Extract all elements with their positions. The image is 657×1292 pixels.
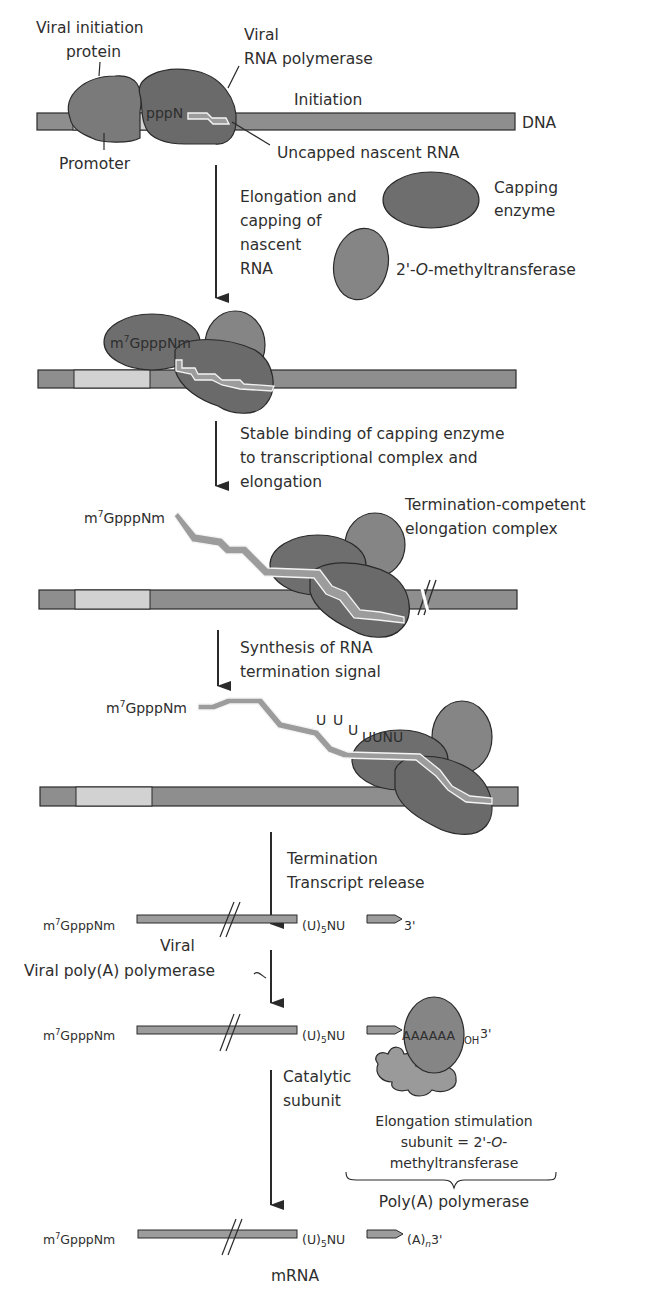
label-polya-polymerase: Poly(A) polymerase — [379, 1193, 529, 1211]
label-promoter: Promoter — [59, 155, 131, 173]
label-viral: Viral — [160, 937, 195, 955]
polya-tail: AAAAAA — [402, 1028, 455, 1043]
text-elongation-line3: nascent — [240, 236, 301, 254]
label-termination-competent-line2: elongation complex — [405, 520, 558, 538]
label-termination-competent-line1: Termination-competent — [404, 496, 585, 514]
arrow-termination-release: Termination Transcript release — [271, 832, 425, 924]
label-pppn: pppN — [146, 105, 183, 121]
u-nucleotide-3: U — [348, 722, 358, 738]
text-stable-binding-line2: to transcriptional complex and — [240, 449, 478, 467]
label-polymerase-line2: RNA polymerase — [244, 50, 373, 68]
label-capping-enzyme-line1: Capping — [494, 179, 558, 197]
text-synthesis-line1: Synthesis of RNA — [240, 639, 373, 657]
step-termination-signal: m7GpppNm U U U UUNU — [40, 698, 518, 834]
u-nucleotide-2: U — [333, 712, 343, 728]
text-elongation-line2: capping of — [240, 212, 322, 230]
cap-label-step4: m7GpppNm — [106, 699, 187, 716]
text-stable-binding-line1: Stable binding of capping enzyme — [240, 425, 505, 443]
polya-n-label: (A)n3' — [407, 1232, 442, 1249]
oh-label: OH — [464, 1035, 479, 1046]
capping-enzyme-shape — [383, 172, 479, 228]
label-capping-enzyme-line2: enzyme — [494, 202, 555, 220]
cap-label-step5: m7GpppNm — [43, 918, 115, 933]
brace — [346, 1172, 556, 1188]
methyltransferase-shape — [327, 223, 395, 305]
label-initiation-protein-line1: Viral initiation — [36, 19, 144, 37]
step-mrna: m7GpppNm (U)5NU (A)n3' mRNA — [43, 1219, 442, 1285]
label-uncapped-rna: Uncapped nascent RNA — [277, 144, 460, 162]
tail-label-step5: (U)5NU — [302, 918, 345, 935]
step-capped-complex: m7GpppNm — [38, 311, 516, 413]
text-elongation-line1: Elongation and — [240, 188, 357, 206]
cap-label-step7: m7GpppNm — [43, 1232, 115, 1247]
label-initiation: Initiation — [294, 91, 362, 109]
tail-label-step7: (U)5NU — [302, 1232, 345, 1249]
uunu-signal: UUNU — [362, 729, 403, 745]
label-initiation-protein-line2: protein — [66, 43, 121, 61]
label-polymerase-line1: Viral — [244, 26, 279, 44]
arrow-termination-signal: Synthesis of RNA termination signal — [218, 630, 381, 686]
text-viral-polya-polymerase: Viral poly(A) polymerase — [24, 962, 215, 980]
text-elongation-line4: RNA — [240, 260, 273, 278]
label-mrna: mRNA — [271, 1267, 319, 1285]
three-prime-end: 3' — [404, 918, 415, 933]
label-stimulation-line3: methyltransferase — [390, 1155, 519, 1171]
step-initiation: Viral initiation protein Viral RNA polym… — [36, 19, 557, 173]
label-catalytic-line1: Catalytic — [283, 1068, 351, 1086]
arrow-elongation-capping: Elongation and capping of nascent RNA Ca… — [216, 165, 576, 305]
step-polyadenylation: m7GpppNm (U)5NU AAAAAA OH 3' — [43, 997, 491, 1096]
cap-label-step2: m7GpppNm — [110, 334, 191, 351]
arrow-polya-polymerase: Viral poly(A) polymerase — [24, 950, 271, 1003]
text-stable-binding-line3: elongation — [240, 473, 322, 491]
three-prime-end-step6: 3' — [480, 1026, 491, 1041]
text-synthesis-line2: termination signal — [240, 663, 381, 681]
label-stimulation-line1: Elongation stimulation — [375, 1113, 532, 1129]
label-dna: DNA — [522, 114, 557, 132]
cap-label-step6: m7GpppNm — [43, 1028, 115, 1043]
u-nucleotide-1: U — [316, 712, 326, 728]
label-catalytic-line2: subunit — [283, 1092, 341, 1110]
cap-label-step3: m7GpppNm — [84, 509, 165, 526]
initiation-protein-shape — [68, 76, 141, 142]
label-methyltransferase: 2'-O-methyltransferase — [396, 261, 576, 279]
tail-label-step6: (U)5NU — [302, 1028, 345, 1045]
arrow-stable-binding: Stable binding of capping enzyme to tran… — [216, 421, 505, 491]
viral-mrna-synthesis-diagram: Viral initiation protein Viral RNA polym… — [0, 0, 657, 1292]
label-stimulation-line2: subunit = 2'-O- — [401, 1134, 508, 1150]
text-termination-line2: Transcript release — [286, 874, 425, 892]
step-released-transcript: m7GpppNm (U)5NU 3' Viral — [43, 902, 415, 955]
step-termination-competent: m7GpppNm Termination-competent elongatio… — [39, 496, 585, 637]
text-termination-line1: Termination — [286, 850, 378, 868]
